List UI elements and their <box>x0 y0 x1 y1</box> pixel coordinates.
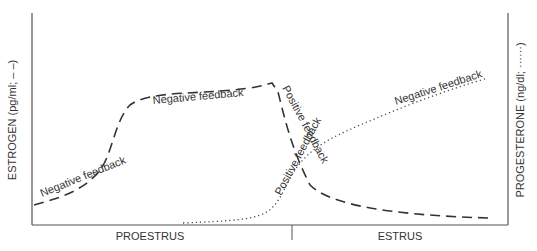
annotation-progesterone-negative: Negative feedback <box>393 67 484 107</box>
annotation-estrogen-negative-plateau: Negative feedback <box>152 86 244 106</box>
progesterone-curve <box>183 78 488 223</box>
annotation-estrogen-negative-low: Negative feedback <box>38 153 127 198</box>
annotation-progesterone-positive: Positive feedback <box>272 115 323 197</box>
right-axis-title: PROGESTERONE (ng/dl; ······) <box>514 42 526 197</box>
phase-label-estrus: ESTRUS <box>378 230 423 242</box>
phase-label-proestrus: PROESTRUS <box>116 230 184 242</box>
hormone-feedback-diagram: ESTROGEN (pg/ml; – –) PROGESTERONE (ng/d… <box>0 0 537 251</box>
left-axis-title: ESTROGEN (pg/ml; – –) <box>6 60 18 180</box>
estrogen-curve <box>34 83 488 218</box>
